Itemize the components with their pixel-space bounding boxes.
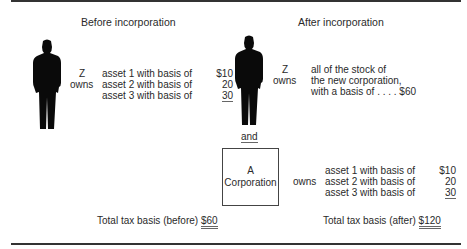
bottom-rule [11,243,461,245]
asset-amount: $10 [439,165,456,176]
connector-text: and [241,131,258,143]
before-heading: Before incorporation [81,16,176,28]
top-rule [11,0,461,2]
asset-amount: $10 [216,68,233,79]
after-stock-lines: all of the stock of the new corporation,… [311,64,416,97]
before-total: Total tax basis (before) $60 [97,215,218,226]
person-silhouette-icon [234,35,264,127]
after-asset-list: asset 1 with basis of$10 asset 2 with ba… [325,165,456,199]
asset-label: asset 1 with basis of [102,68,192,79]
after-heading: After incorporation [298,16,384,28]
asset-row: asset 1 with basis of$10 [325,165,456,176]
corporation-box: A Corporation [222,148,279,206]
asset-label: asset 2 with basis of [102,79,192,90]
before-verb: owns [70,79,93,90]
asset-row: asset 3 with basis of30 [102,90,233,102]
stock-line: all of the stock of [311,64,416,75]
after-owner: Z [273,64,297,75]
asset-amount: 30 [222,90,233,102]
corporation-line1: A [247,165,254,177]
asset-row: asset 3 with basis of30 [325,187,456,199]
corporation-line2: Corporation [224,177,276,189]
asset-amount: 20 [445,176,456,187]
asset-label: asset 1 with basis of [325,165,415,176]
asset-amount: 30 [445,187,456,199]
after-verb: owns [273,75,296,86]
person-silhouette-icon [32,39,62,131]
asset-label: asset 3 with basis of [325,187,415,199]
after-total-amount: $120 [419,215,441,229]
stock-line: the new corporation, [311,75,416,86]
asset-label: asset 3 with basis of [102,90,192,102]
asset-row: asset 2 with basis of20 [102,79,233,90]
asset-label: asset 2 with basis of [325,176,415,187]
before-total-label: Total tax basis (before) [97,215,198,226]
after-total: Total tax basis (after) $120 [323,215,441,226]
asset-row: asset 2 with basis of20 [325,176,456,187]
before-asset-list: asset 1 with basis of$10 asset 2 with ba… [102,68,233,102]
after-total-label: Total tax basis (after) [323,215,416,226]
stock-line: with a basis of . . . . $60 [311,86,416,97]
corp-verb: owns [293,176,316,187]
asset-amount: 20 [222,79,233,90]
before-total-amount: $60 [201,215,218,229]
connector-and: and [241,131,258,142]
before-owner: Z [70,68,94,79]
asset-row: asset 1 with basis of$10 [102,68,233,79]
